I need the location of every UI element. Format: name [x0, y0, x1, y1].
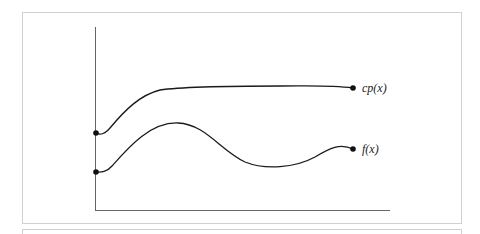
cp-start-point — [93, 130, 99, 136]
diagram-canvas: cp(x) f(x) — [0, 0, 480, 234]
f-start-point — [93, 169, 99, 175]
cp-curve — [96, 86, 353, 134]
f-end-point — [350, 146, 356, 152]
cp-label: cp(x) — [362, 81, 387, 95]
f-curve — [96, 123, 353, 172]
f-label: f(x) — [362, 142, 379, 156]
cp-end-point — [350, 85, 356, 91]
